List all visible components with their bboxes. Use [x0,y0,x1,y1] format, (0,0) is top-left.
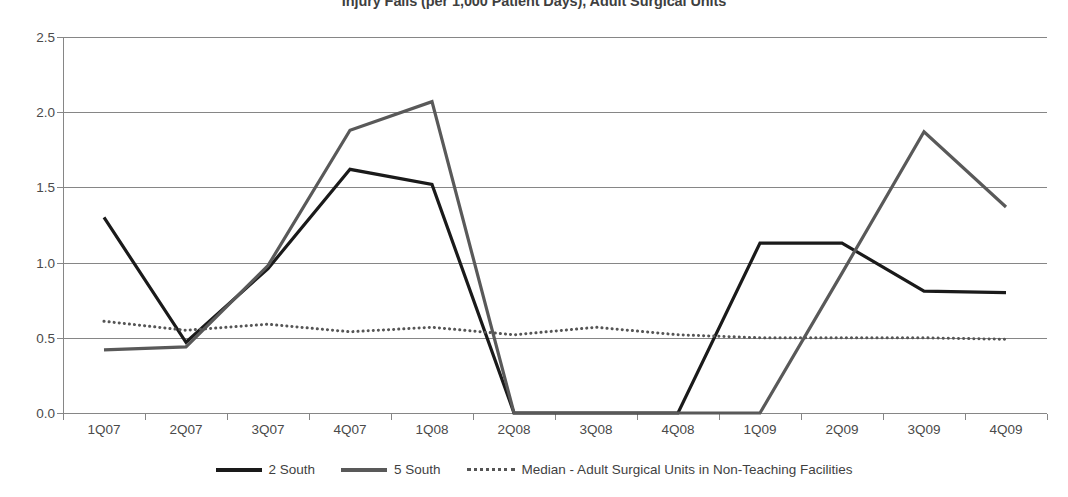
y-axis-label: 1.5 [11,180,55,195]
chart-container: Injury Falls (per 1,000 Patient Days), A… [0,0,1068,497]
y-axis-label: 2.5 [11,30,55,45]
x-axis-label: 4Q08 [661,422,694,437]
legend-label: Median - Adult Surgical Units in Non-Tea… [522,463,853,477]
x-tickmark [63,414,64,420]
x-axis-label: 1Q07 [87,422,120,437]
legend-item[interactable]: Median - Adult Surgical Units in Non-Tea… [467,463,853,477]
legend-item[interactable]: 2 South [216,463,316,477]
x-axis-label: 3Q09 [907,422,940,437]
x-tickmark [227,414,228,420]
x-axis-label: 4Q07 [333,422,366,437]
x-tickmark [719,414,720,420]
x-axis-label: 1Q09 [743,422,776,437]
legend-swatch-icon [216,468,262,472]
x-tickmark [965,414,966,420]
legend-item[interactable]: 5 South [341,463,441,477]
x-tickmark [473,414,474,420]
legend-label: 2 South [269,463,316,477]
y-axis-label: 1.0 [11,255,55,270]
y-axis-label: 0.5 [11,330,55,345]
legend-swatch-icon [341,468,387,472]
x-tickmark [637,414,638,420]
x-tickmark [883,414,884,420]
series-line [104,321,1006,339]
y-axis-label: 0.0 [11,406,55,421]
series-line [104,169,1006,413]
y-axis-label: 2.0 [11,105,55,120]
chart-title: Injury Falls (per 1,000 Patient Days), A… [0,0,1068,9]
x-axis-label: 2Q07 [169,422,202,437]
x-axis-label: 2Q09 [825,422,858,437]
x-tickmark [391,414,392,420]
x-axis-label: 3Q07 [251,422,284,437]
series-lines [63,37,1047,414]
x-tickmark [309,414,310,420]
x-tickmark [801,414,802,420]
x-axis-label: 4Q09 [989,422,1022,437]
legend-label: 5 South [394,463,441,477]
x-axis-label: 3Q08 [579,422,612,437]
legend-swatch-icon [467,468,515,471]
x-tickmark [145,414,146,420]
x-tickmark [555,414,556,420]
chart-legend: 2 South5 SouthMedian - Adult Surgical Un… [0,463,1068,477]
series-line [104,102,1006,413]
x-tickmark [1047,414,1048,420]
x-axis-label: 2Q08 [497,422,530,437]
x-axis-label: 1Q08 [415,422,448,437]
